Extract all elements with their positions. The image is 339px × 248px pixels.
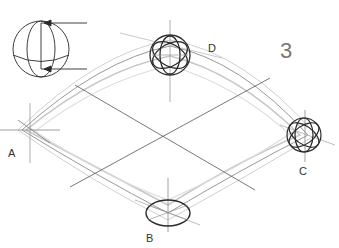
- figure-number: 3: [280, 40, 292, 62]
- label-d: D: [208, 43, 216, 54]
- label-b: B: [146, 233, 153, 244]
- inset-sphere-diagram: [13, 20, 87, 77]
- label-c: C: [299, 166, 307, 177]
- label-a: A: [8, 148, 15, 159]
